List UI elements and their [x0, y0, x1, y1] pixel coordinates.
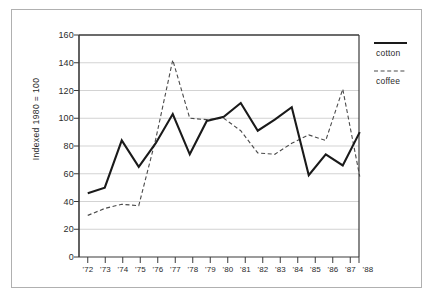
figure-frame: Indexed 1980 = 100 160 140 120 100 80 60… — [11, 9, 422, 288]
series-line-cotton — [88, 103, 360, 193]
y-tick-label: 160 — [44, 30, 74, 40]
y-tick-label: 100 — [44, 113, 74, 123]
series-line-coffee — [88, 60, 360, 215]
y-tick-label: 120 — [44, 86, 74, 96]
line-chart: Indexed 1980 = 100 160 140 120 100 80 60… — [12, 10, 423, 289]
y-tick-label: 140 — [44, 58, 74, 68]
y-tick-label: 0 — [44, 252, 74, 262]
y-tick-label: 80 — [44, 141, 74, 151]
y-tick-label: 20 — [44, 224, 74, 234]
legend-label-coffee: coffee — [376, 76, 400, 86]
x-tick-marks — [88, 257, 359, 263]
y-tick-label: 60 — [44, 169, 74, 179]
y-tick-label: 40 — [44, 197, 74, 207]
legend-label-cotton: cotton — [376, 48, 400, 58]
y-axis-title: Indexed 1980 = 100 — [31, 39, 41, 199]
x-tick-label: '88 — [358, 265, 378, 274]
